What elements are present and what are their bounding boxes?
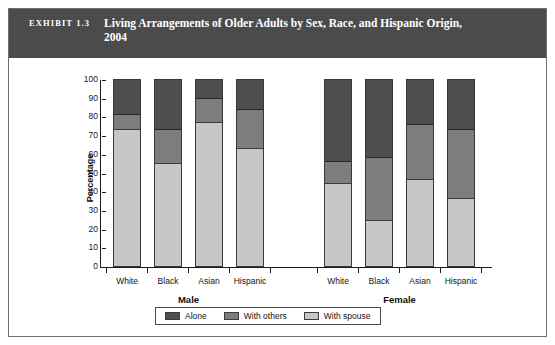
bar-segment-alone: [114, 80, 140, 115]
stacked-bar: [324, 79, 352, 267]
bar-segment-with-others: [114, 115, 140, 130]
plot-region: Percentage 0102030405060708090100 WhiteB…: [100, 80, 492, 268]
bar-segment-alone: [407, 80, 433, 125]
stacked-bar: [154, 79, 182, 267]
bar-segment-alone: [366, 80, 392, 158]
x-axis-category-label: Hispanic: [433, 276, 489, 286]
y-axis-tick-label: 90: [70, 93, 98, 103]
y-axis-tick-mark: [102, 117, 106, 118]
stacked-bar: [365, 79, 393, 267]
stacked-bar: [406, 79, 434, 267]
x-axis-group-label-female: Female: [360, 294, 440, 305]
chart-area: Percentage 0102030405060708090100 WhiteB…: [9, 58, 546, 336]
bar-segment-with-spouse: [366, 221, 392, 266]
exhibit-title: Living Arrangements of Older Adults by S…: [104, 16, 474, 44]
y-axis-tick-mark: [102, 248, 106, 249]
bar-segment-with-others: [448, 130, 474, 199]
bar-segment-with-spouse: [114, 130, 140, 266]
x-axis-tick-mark: [188, 268, 189, 273]
bar-segment-with-spouse: [325, 184, 351, 266]
x-axis-tick-mark: [229, 268, 230, 273]
bar-segment-with-others: [366, 158, 392, 221]
y-axis-tick-mark: [102, 80, 106, 81]
x-axis-tick-mark: [270, 268, 271, 273]
y-axis-tick-label: 20: [70, 224, 98, 234]
bar-segment-alone: [237, 80, 263, 110]
bar-segment-alone: [196, 80, 222, 99]
y-axis-tick-mark: [102, 136, 106, 137]
bar-segment-with-others: [237, 110, 263, 149]
x-axis-tick-mark: [481, 268, 482, 273]
legend-item: Alone: [165, 311, 207, 321]
x-axis-tick-mark: [147, 268, 148, 273]
legend-label: Alone: [185, 311, 207, 321]
bar-segment-with-others: [407, 125, 433, 181]
bar-segment-with-spouse: [448, 199, 474, 266]
y-axis-tick-mark: [102, 174, 106, 175]
legend-label: With others: [244, 311, 287, 321]
exhibit-header-inner: EXHIBIT 1.3 Living Arrangements of Older…: [29, 16, 532, 44]
stacked-bar: [195, 79, 223, 267]
y-axis-tick-label: 10: [70, 242, 98, 252]
y-axis-tick-label: 50: [70, 168, 98, 178]
legend-swatch: [165, 312, 180, 320]
exhibit-header-band: EXHIBIT 1.3 Living Arrangements of Older…: [9, 9, 546, 58]
y-axis-tick-mark: [102, 211, 106, 212]
stacked-bar: [447, 79, 475, 267]
exhibit-number-label: EXHIBIT 1.3: [29, 16, 90, 28]
y-axis-tick-label: 40: [70, 186, 98, 196]
y-axis-tick-label: 80: [70, 111, 98, 121]
stacked-bar: [236, 79, 264, 267]
bar-segment-alone: [325, 80, 351, 162]
bar-segment-with-others: [155, 130, 181, 163]
legend-item: With spouse: [304, 311, 371, 321]
y-axis-tick-mark: [102, 99, 106, 100]
bar-segment-alone: [155, 80, 181, 130]
y-axis-tick-label: 60: [70, 149, 98, 159]
legend-swatch: [304, 312, 319, 320]
chart-legend: AloneWith othersWith spouse: [155, 307, 381, 325]
bar-segment-with-spouse: [237, 149, 263, 266]
exhibit-card: EXHIBIT 1.3 Living Arrangements of Older…: [8, 8, 547, 337]
y-axis-tick-label: 100: [70, 74, 98, 84]
x-axis-tick-mark: [317, 268, 318, 273]
y-axis-tick-label: 30: [70, 205, 98, 215]
x-axis-tick-mark: [399, 268, 400, 273]
x-axis-tick-mark: [440, 268, 441, 273]
y-axis-tick-mark: [102, 155, 106, 156]
y-axis-tick-mark: [102, 192, 106, 193]
x-axis-group-label-male: Male: [149, 294, 229, 305]
legend-swatch: [224, 312, 239, 320]
bar-segment-with-spouse: [407, 180, 433, 266]
bar-segment-with-others: [325, 162, 351, 184]
legend-label: With spouse: [324, 311, 371, 321]
x-axis-tick-mark: [106, 268, 107, 273]
y-axis-tick-mark: [102, 230, 106, 231]
bar-segment-alone: [448, 80, 474, 130]
stacked-bar: [113, 79, 141, 267]
legend-item: With others: [224, 311, 287, 321]
bar-segment-with-spouse: [196, 123, 222, 266]
bar-segment-with-others: [196, 99, 222, 123]
y-axis-tick-label: 70: [70, 130, 98, 140]
x-axis-category-label: Hispanic: [222, 276, 278, 286]
bar-segment-with-spouse: [155, 164, 181, 266]
y-axis-tick-label: 0: [70, 261, 98, 271]
x-axis-tick-mark: [358, 268, 359, 273]
